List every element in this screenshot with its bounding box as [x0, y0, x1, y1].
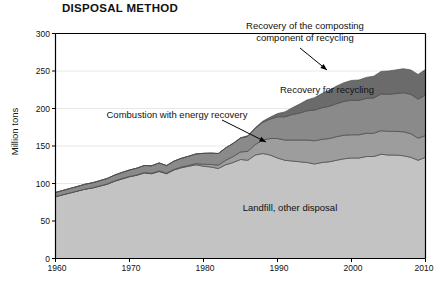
annotation-combustion: Combustion with energy recovery	[107, 109, 248, 121]
annotation-composting-line2: component of recycling	[246, 32, 364, 44]
annotation-composting: Recovery of the composting component of …	[246, 20, 364, 43]
annotation-landfill: Landfill, other disposal	[243, 202, 338, 214]
annotation-recycling: Recovery for recycling	[280, 84, 374, 96]
plot-area	[0, 0, 444, 287]
chart-container: DISPOSAL METHOD Million tons 300 250 200…	[0, 0, 444, 287]
annotation-composting-line1: Recovery of the composting	[246, 20, 364, 32]
